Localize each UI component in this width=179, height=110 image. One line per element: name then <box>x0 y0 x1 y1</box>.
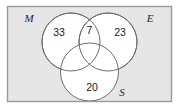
region-value-M-and-E: 7 <box>87 24 93 36</box>
region-value-M-only: 33 <box>53 26 65 38</box>
venn-diagram-figure: M E S 33 7 23 20 <box>0 0 179 110</box>
region-value-E-only: 23 <box>114 26 126 38</box>
set-label-M: M <box>23 12 34 24</box>
set-label-E: E <box>146 12 154 24</box>
region-value-S-only: 20 <box>86 81 98 93</box>
venn-diagram-canvas: M E S 33 7 23 20 <box>0 0 179 110</box>
set-label-S: S <box>119 86 125 98</box>
